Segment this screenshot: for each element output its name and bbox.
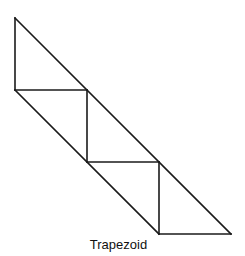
trapezoid-lines [15, 18, 231, 234]
trapezoid-diagram [0, 0, 245, 256]
diagram-caption: Trapezoid [0, 237, 245, 252]
edge-line [15, 18, 231, 234]
